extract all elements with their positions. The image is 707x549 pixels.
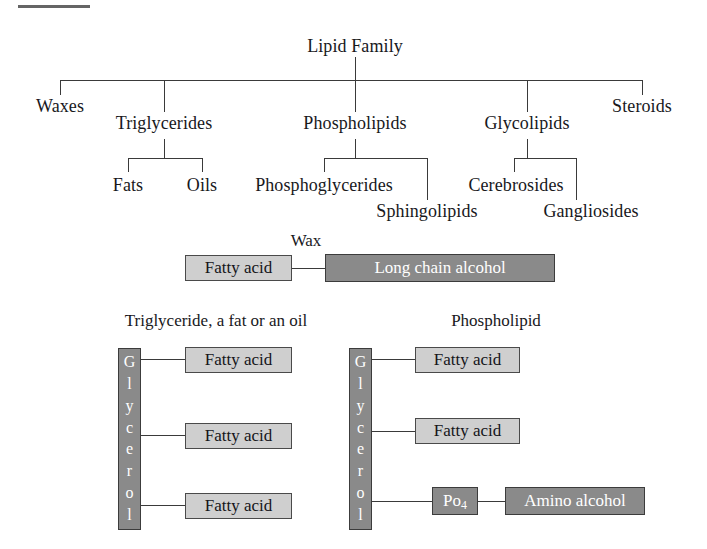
lipid-family-diagram: Lipid Family Waxes Triglycerides Phospho… (0, 0, 707, 549)
glycerol2-letter-e: e (357, 441, 364, 457)
wax-title: Wax (291, 231, 322, 250)
drop-gangliosides (576, 158, 577, 200)
glycerol-letter-r: r (127, 463, 132, 479)
drop-phosphoglycerides (324, 158, 325, 172)
glycerol-letter-e: e (126, 441, 133, 457)
tree-node-steroids: Steroids (612, 96, 672, 116)
triglyceride-connector-3 (141, 505, 185, 506)
drop-cerebrosides (514, 158, 515, 172)
glycerol2-letter-l1: l (358, 376, 362, 392)
phosphate-label: Po (443, 492, 461, 510)
glycerol2-letter-r: r (358, 463, 363, 479)
triglyceride-glycerol-backbone: G l y c e r o l (118, 348, 141, 530)
phospholipid-fatty-acid-box-2: Fatty acid (415, 418, 520, 444)
tree-node-waxes: Waxes (36, 96, 84, 116)
wax-connector (292, 268, 325, 269)
drop-waxes (60, 80, 61, 95)
phospholipid-connector-2 (372, 431, 415, 432)
glycerol-letter-l1: l (127, 376, 131, 392)
triglyceride-fatty-acid-box-1: Fatty acid (185, 347, 292, 373)
drop-triglycerides-sub (164, 139, 165, 158)
tree-node-phospholipids: Phospholipids (303, 113, 406, 133)
drop-triglycerides (164, 80, 165, 112)
tree-node-sphingolipids: Sphingolipids (376, 201, 477, 221)
tree-node-oils: Oils (187, 175, 217, 195)
glycerol2-letter-l2: l (358, 507, 362, 523)
phosphate-subscript: 4 (461, 496, 467, 514)
root-drop-line (355, 57, 356, 80)
triglyceride-title: Triglyceride, a fat or an oil (125, 311, 308, 330)
glycerol2-letter-g: G (355, 354, 367, 370)
drop-steroids (642, 80, 643, 95)
tree-node-gangliosides: Gangliosides (543, 201, 638, 221)
triglyceride-connector-1 (141, 359, 185, 360)
bus-glycolipids-sub (514, 158, 576, 159)
bus-triglycerides-sub (128, 158, 202, 159)
tree-bus-line (60, 80, 642, 81)
phospholipid-connector-1 (372, 359, 415, 360)
triglyceride-fatty-acid-box-2: Fatty acid (185, 423, 292, 449)
drop-oils (202, 158, 203, 172)
phosphate-head-connector (478, 501, 505, 502)
glycerol2-letter-o: o (357, 485, 365, 501)
phospholipid-title: Phospholipid (451, 311, 541, 330)
top-rule-mark (18, 5, 90, 8)
tree-node-cerebrosides: Cerebrosides (468, 175, 563, 195)
glycerol-letter-o: o (126, 485, 134, 501)
glycerol2-letter-c: c (357, 420, 364, 436)
drop-fats (128, 158, 129, 172)
phospholipid-connector-3 (372, 501, 432, 502)
tree-root-label: Lipid Family (307, 36, 403, 56)
tree-node-glycolipids: Glycolipids (484, 113, 569, 133)
glycerol-letter-y: y (126, 398, 134, 414)
phospholipid-fatty-acid-box-1: Fatty acid (415, 347, 520, 373)
tree-node-phosphoglycerides: Phosphoglycerides (255, 175, 393, 195)
drop-phospholipids-sub (355, 139, 356, 158)
tree-node-triglycerides: Triglycerides (116, 113, 213, 133)
triglyceride-connector-2 (141, 435, 185, 436)
drop-glycolipids-sub (527, 139, 528, 158)
glycerol-letter-l2: l (127, 507, 131, 523)
drop-phospholipids (355, 80, 356, 112)
drop-sphingolipids (427, 158, 428, 200)
glycerol2-letter-y: y (357, 398, 365, 414)
triglyceride-fatty-acid-box-3: Fatty acid (185, 493, 292, 519)
tree-node-fats: Fats (113, 175, 143, 195)
drop-glycolipids (527, 80, 528, 112)
amino-alcohol-box: Amino alcohol (505, 487, 645, 515)
phosphate-box: Po4 (432, 487, 478, 515)
glycerol-letter-g: G (124, 354, 136, 370)
glycerol-letter-c: c (126, 420, 133, 436)
wax-long-chain-alcohol-box: Long chain alcohol (325, 254, 555, 282)
bus-phospholipids-sub (324, 158, 427, 159)
wax-fatty-acid-box: Fatty acid (185, 255, 292, 281)
phospholipid-glycerol-backbone: G l y c e r o l (349, 348, 372, 530)
